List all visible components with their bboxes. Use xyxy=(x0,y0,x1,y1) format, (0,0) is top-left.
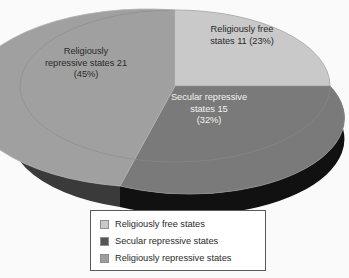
legend-item-religiously-free[interactable]: Religiously free states xyxy=(100,216,265,232)
legend-swatch-icon-religiously-free xyxy=(100,220,109,229)
legend-swatch-icon-secular-repressive xyxy=(100,237,109,246)
legend-label-religiously-repressive: Religiously repressive states xyxy=(115,253,231,263)
chart-legend: Religiously free states Secular repressi… xyxy=(90,210,266,271)
pie-chart-figure: Religiously free states 11 (23%) Religio… xyxy=(0,0,349,278)
legend-item-secular-repressive[interactable]: Secular repressive states xyxy=(100,233,265,249)
pie-slice-religiously-free xyxy=(175,10,330,86)
legend-item-religiously-repressive[interactable]: Religiously repressive states xyxy=(100,250,265,266)
legend-label-secular-repressive: Secular repressive states xyxy=(115,236,218,246)
legend-label-religiously-free: Religiously free states xyxy=(115,219,205,229)
legend-swatch-icon-religiously-repressive xyxy=(100,254,109,263)
